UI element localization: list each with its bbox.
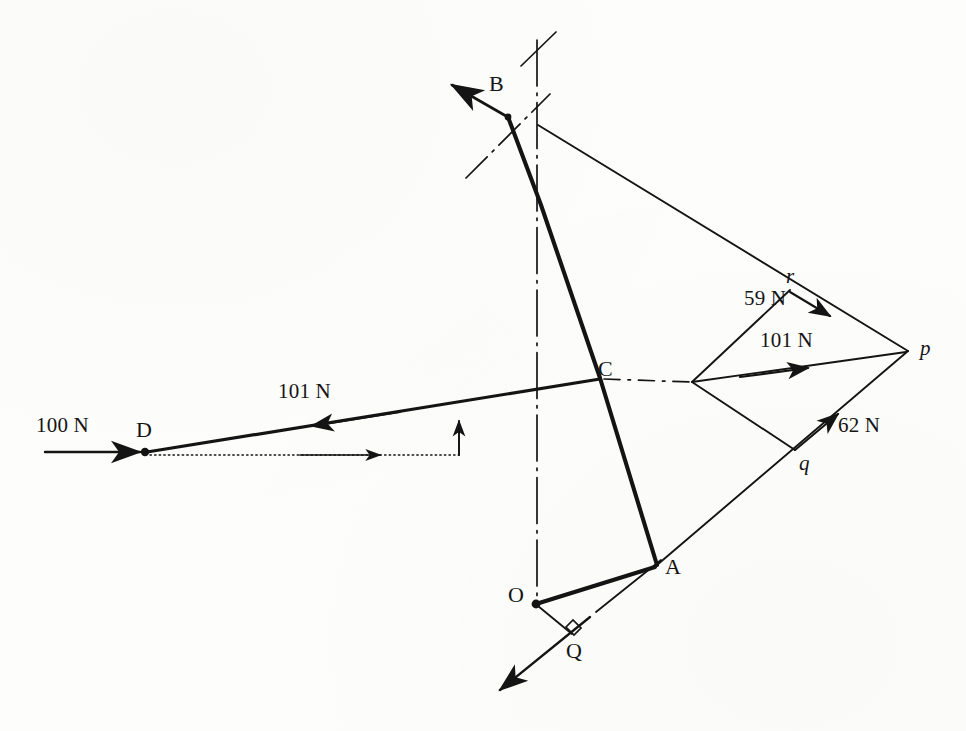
label-force-101n-polygon: 101 N	[760, 330, 813, 351]
node-dots	[141, 114, 541, 609]
arrow-59N	[790, 292, 830, 316]
arrow-101N-polygon	[740, 368, 808, 377]
perpendicular-O-Q	[538, 606, 572, 634]
label-point-p: p	[920, 338, 931, 359]
label-force-59n: 59 N	[744, 288, 786, 309]
dot-D	[141, 448, 149, 456]
force-polygon	[538, 125, 908, 565]
member-O-A	[536, 567, 655, 604]
label-force-101n-space: 101 N	[278, 381, 331, 402]
label-force-62n: 62 N	[838, 415, 880, 436]
label-point-O: O	[508, 584, 524, 606]
segment-pole-q	[692, 382, 795, 450]
dot-O	[532, 600, 541, 609]
arrow-101N-space	[312, 412, 400, 426]
ray-top-to-p	[538, 125, 908, 351]
space-diagram-members	[147, 117, 657, 604]
figure-canvas	[0, 0, 966, 731]
dot-B	[505, 114, 512, 121]
label-point-Q: Q	[566, 640, 582, 662]
label-point-B: B	[489, 73, 504, 95]
segment-pole-p	[692, 352, 906, 382]
label-point-r: r	[786, 266, 794, 287]
line-of-action-A-Q	[596, 560, 661, 612]
label-point-q: q	[799, 453, 810, 474]
horizontal-axis-line	[604, 379, 690, 382]
label-point-D: D	[136, 419, 152, 441]
force-arrows-space	[45, 85, 661, 690]
label-point-A: A	[665, 556, 681, 578]
force-polygon-diagram: B C A D O Q p q r 100 N 101 N 59 N 101 N…	[0, 0, 966, 731]
arrow-62N	[795, 414, 838, 450]
label-force-100n: 100 N	[36, 415, 89, 436]
label-point-C: C	[598, 358, 613, 380]
axis-top-tick	[521, 32, 556, 66]
